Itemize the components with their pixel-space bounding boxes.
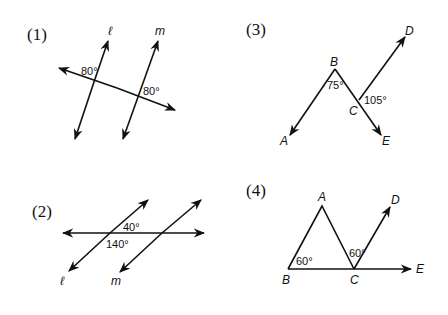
point-A: A xyxy=(279,134,288,148)
point-B: B xyxy=(282,273,290,287)
point-E: E xyxy=(416,262,425,276)
line-m-label: m xyxy=(111,274,121,288)
diagram-2: (2) ℓ m 40° 140° xyxy=(32,200,204,288)
point-C: C xyxy=(350,273,359,287)
point-D: D xyxy=(391,193,400,207)
line-m-label: m xyxy=(155,24,165,38)
point-A: A xyxy=(317,190,326,204)
line-l-lower xyxy=(69,233,110,271)
angle-label-2: 60° xyxy=(349,247,366,259)
point-B: B xyxy=(330,55,338,69)
angle-label-2: 80° xyxy=(143,85,160,97)
angle-label-2: 140° xyxy=(106,238,129,250)
line-l-label: ℓ xyxy=(60,274,65,288)
angle-label-2: 105° xyxy=(364,94,387,106)
line-l-lower xyxy=(75,79,95,139)
line-m-lower xyxy=(123,97,138,139)
diagram-1: (1) ℓ m 80° 80° xyxy=(27,24,175,139)
point-C: C xyxy=(349,104,358,118)
diagram-2-number: (2) xyxy=(32,202,52,221)
angle-label-1: 40° xyxy=(123,221,140,233)
point-E: E xyxy=(382,134,391,148)
geometry-figure: (1) ℓ m 80° 80° (2) ℓ m 40° 140° (3) B A… xyxy=(0,0,448,315)
ray-CD xyxy=(359,37,405,100)
diagram-4: (4) A B C D E 60° 60° xyxy=(246,181,425,287)
line-l-label: ℓ xyxy=(108,24,113,38)
diagram-4-number: (4) xyxy=(246,181,266,200)
diagram-3: (3) B A C D E 75° 105° xyxy=(246,20,414,148)
angle-label-1: 60° xyxy=(296,255,313,267)
diagram-3-number: (3) xyxy=(246,20,266,39)
diagram-1-number: (1) xyxy=(27,25,47,44)
point-D: D xyxy=(405,24,414,38)
line-m-upper xyxy=(162,200,201,233)
angle-label-1: 80° xyxy=(81,65,98,77)
angle-label-1: 75° xyxy=(327,79,344,91)
ray-CD xyxy=(354,207,390,269)
